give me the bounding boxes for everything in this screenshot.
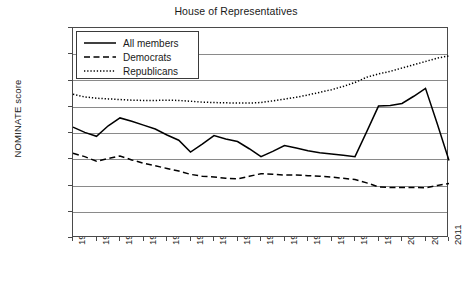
legend-swatch-dashed-icon xyxy=(83,51,117,63)
chart-title: House of Representatives xyxy=(0,5,472,17)
series-line-all-members xyxy=(73,88,449,160)
legend-swatch-solid-icon xyxy=(83,37,117,49)
chart-figure: House of Representatives NOMINATE score … xyxy=(0,0,472,290)
series-line-democrats xyxy=(73,153,449,188)
legend-label: All members xyxy=(123,38,179,49)
legend-label: Republicans xyxy=(123,66,178,77)
legend-label: Democrats xyxy=(123,52,171,63)
y-axis-label: NOMINATE score xyxy=(12,39,23,199)
x-axis-tick-label: 2011 xyxy=(452,225,463,245)
legend-swatch-dotted-icon xyxy=(83,65,117,77)
legend-item-republicans[interactable]: Republicans xyxy=(77,63,198,79)
legend: All membersDemocratsRepublicans xyxy=(76,31,199,79)
